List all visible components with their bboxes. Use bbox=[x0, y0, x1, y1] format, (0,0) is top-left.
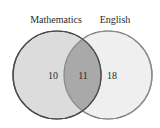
mathematics-set-label: Mathematics bbox=[30, 14, 82, 25]
venn-diagram: Mathematics English 10 11 18 bbox=[0, 0, 160, 128]
english-set-label: English bbox=[100, 14, 131, 25]
english-only-value: 18 bbox=[107, 70, 117, 81]
intersection-value: 11 bbox=[78, 70, 88, 81]
mathematics-only-value: 10 bbox=[48, 70, 58, 81]
